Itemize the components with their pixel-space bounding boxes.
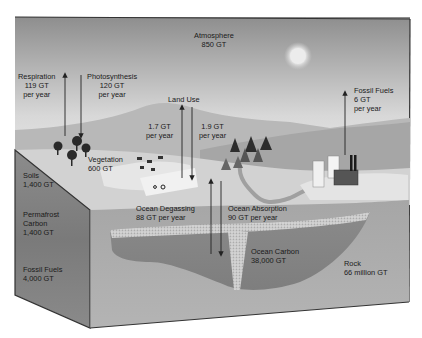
fossil-fuels-flux-amount: 6 GT bbox=[354, 95, 393, 104]
respiration-name: Respiration bbox=[18, 72, 55, 81]
carbon-cycle-diagram bbox=[0, 0, 422, 338]
land-use-down-amount: 1.9 GT bbox=[199, 122, 226, 131]
permafrost-amount: 1,400 GT bbox=[23, 228, 59, 237]
land-use-name: Land Use bbox=[168, 95, 200, 104]
soils-name: Soils bbox=[23, 171, 54, 180]
vegetation-label: Vegetation 600 GT bbox=[88, 155, 123, 173]
photosynthesis-amount: 120 GT bbox=[87, 81, 137, 90]
land-use-up-unit: per year bbox=[146, 131, 173, 140]
ocean-absorption-name: Ocean Absorption bbox=[228, 204, 287, 213]
fossil-fuels-flux-unit: per year bbox=[354, 104, 393, 113]
ocean-absorption-label: Ocean Absorption 90 GT per year bbox=[228, 204, 287, 222]
ocean-carbon-label: Ocean Carbon 38,000 GT bbox=[251, 247, 299, 265]
permafrost-label: Permafrost Carbon 1,400 GT bbox=[23, 210, 59, 237]
photosynthesis-label: Photosynthesis 120 GT per year bbox=[87, 72, 137, 99]
fossil-fuels-flux-label: Fossil Fuels 6 GT per year bbox=[354, 86, 393, 113]
atmosphere-amount: 850 GT bbox=[194, 40, 234, 49]
soils-amount: 1,400 GT bbox=[23, 180, 54, 189]
ocean-carbon-amount: 38,000 GT bbox=[251, 256, 299, 265]
land-use-label: Land Use bbox=[168, 95, 200, 104]
ocean-carbon-name: Ocean Carbon bbox=[251, 247, 299, 256]
land-use-down-label: 1.9 GT per year bbox=[199, 122, 226, 140]
vegetation-name: Vegetation bbox=[88, 155, 123, 164]
atmosphere-label: Atmosphere 850 GT bbox=[194, 31, 234, 49]
respiration-amount: 119 GT bbox=[18, 81, 55, 90]
atmosphere-name: Atmosphere bbox=[194, 31, 234, 40]
photosynthesis-unit: per year bbox=[87, 90, 137, 99]
ocean-absorption-amount: 90 GT per year bbox=[228, 213, 287, 222]
land-use-up-label: 1.7 GT per year bbox=[146, 122, 173, 140]
fossil-fuels-flux-name: Fossil Fuels bbox=[354, 86, 393, 95]
fossil-fuels-reservoir-amount: 4,000 GT bbox=[23, 274, 62, 283]
land-use-up-amount: 1.7 GT bbox=[146, 122, 173, 131]
permafrost-name-line1: Permafrost bbox=[23, 210, 59, 219]
fossil-fuels-reservoir-label: Fossil Fuels 4,000 GT bbox=[23, 265, 62, 283]
permafrost-name-line2: Carbon bbox=[23, 219, 59, 228]
rock-amount: 66 million GT bbox=[344, 268, 388, 277]
fossil-fuels-reservoir-name: Fossil Fuels bbox=[23, 265, 62, 274]
respiration-label: Respiration 119 GT per year bbox=[18, 72, 55, 99]
ocean-degassing-name: Ocean Degassing bbox=[136, 204, 195, 213]
vegetation-amount: 600 GT bbox=[88, 164, 123, 173]
ocean-degassing-amount: 88 GT per year bbox=[136, 213, 195, 222]
respiration-unit: per year bbox=[18, 90, 55, 99]
photosynthesis-name: Photosynthesis bbox=[87, 72, 137, 81]
sun-icon bbox=[284, 42, 312, 70]
ocean-degassing-label: Ocean Degassing 88 GT per year bbox=[136, 204, 195, 222]
rock-label: Rock 66 million GT bbox=[344, 259, 388, 277]
rock-name: Rock bbox=[344, 259, 388, 268]
land-use-down-unit: per year bbox=[199, 131, 226, 140]
soils-label: Soils 1,400 GT bbox=[23, 171, 54, 189]
